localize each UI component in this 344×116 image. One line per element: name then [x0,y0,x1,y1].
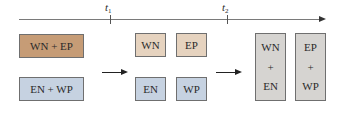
box-ep: EP [176,33,207,57]
box-wn: WN [135,33,166,57]
arrow-right-icon [235,69,242,75]
box-en: EN [135,77,166,101]
box-wn-plus-en: WN + EN [255,33,286,101]
t1-label: t1 [105,2,112,17]
arrow-right-icon [121,69,128,75]
box-ep-plus-wp: EP + WP [295,33,326,101]
timeline-arrowhead-icon [319,16,326,22]
arrow-1-line [102,72,122,73]
arrow-2-line [216,72,236,73]
box-wp: WP [176,77,207,101]
box-wn-ep: WN + EP [19,34,84,58]
t2-label: t2 [222,2,229,17]
box-en-wp: EN + WP [19,77,84,101]
timeline-axis [19,19,321,20]
